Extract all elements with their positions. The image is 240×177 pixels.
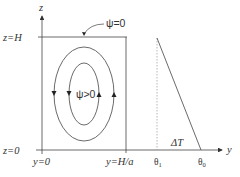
arrow-down-icon — [97, 92, 102, 97]
arrow-down-icon — [112, 92, 117, 97]
psi-positive-label: ψ>0 — [76, 88, 96, 100]
z-axis-label: z — [38, 2, 43, 13]
delta-t-label: ΔT — [170, 137, 184, 148]
circulation-diagram: z y z=H z=0 ψ>0 ψ=0 y=0 y=H/a ΔT θ1 — [0, 0, 240, 177]
psi-zero-leader — [82, 24, 104, 36]
z-top-label: z=H — [2, 32, 23, 43]
theta0-label: θ0 — [198, 157, 206, 168]
z-bottom-label: z=0 — [2, 145, 20, 156]
arrow-up-icon — [67, 91, 72, 96]
theta1-label: θ1 — [154, 157, 162, 168]
y-right-label: y=H/a — [105, 156, 134, 167]
psi-zero-label: ψ=0 — [106, 17, 126, 29]
y-zero-label: y=0 — [32, 156, 51, 167]
temperature-profile — [157, 38, 201, 150]
y-axis-label: y — [226, 144, 232, 155]
arrow-up-icon — [52, 91, 57, 96]
